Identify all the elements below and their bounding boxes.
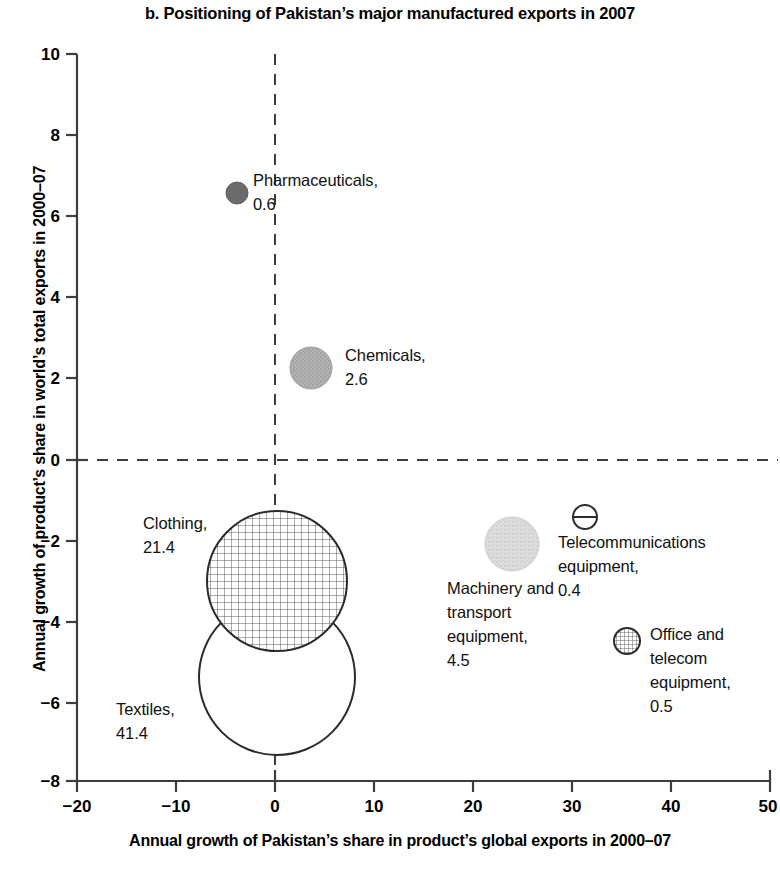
x-tick-label: 20 xyxy=(464,797,483,816)
bubble-label-line: 4.5 xyxy=(447,651,470,669)
bubble-label-line: transport xyxy=(447,603,512,621)
x-tick-label: 10 xyxy=(365,797,384,816)
bubble-label-pharmaceuticals: Pharmaceuticals, 0.6 xyxy=(253,171,378,213)
plot-canvas: 10 8 6 4 2 0 −2 −4 −6 −8 −20 −10 0 10 xyxy=(0,0,780,881)
y-tick-label: 0 xyxy=(51,451,60,470)
y-tick-label: 10 xyxy=(41,45,60,64)
bubble-label-telecommunications-equipment: Telecommunications equipment, 0.4 xyxy=(558,533,706,599)
y-axis-tick-labels: 10 8 6 4 2 0 −2 −4 −6 −8 xyxy=(41,45,61,791)
bubble-label-line: equipment, xyxy=(447,627,528,645)
x-axis-tick-labels: −20 −10 0 10 20 30 40 50 xyxy=(63,797,778,816)
y-tick-label: 2 xyxy=(51,369,60,388)
x-tick-label: −10 xyxy=(162,797,191,816)
bubble-label-line: Telecommunications xyxy=(558,533,706,551)
bubble-label-office-and-telecom-equipment: Office and telecom equipment, 0.5 xyxy=(650,625,731,715)
y-tick-label: 4 xyxy=(51,288,61,307)
bubble-label-line: Pharmaceuticals, xyxy=(253,171,378,189)
bubble-label-line: 0.5 xyxy=(650,697,673,715)
bubble-label-line: 2.6 xyxy=(345,370,368,388)
y-tick-label: −2 xyxy=(41,532,60,551)
y-tick-label: −6 xyxy=(41,694,60,713)
bubble-label-line: telecom xyxy=(650,649,707,667)
y-tick-label: 8 xyxy=(51,126,60,145)
bubble-label-line: Chemicals, xyxy=(345,346,426,364)
bubble-chemicals[interactable] xyxy=(290,347,332,389)
y-tick-label: 6 xyxy=(51,207,60,226)
y-tick-label: −8 xyxy=(41,772,60,791)
bubble-machinery-and-transport-equipment[interactable] xyxy=(485,517,539,571)
x-tick-label: 40 xyxy=(662,797,681,816)
bubble-clothing[interactable] xyxy=(207,511,347,651)
bubble-label-line: 0.4 xyxy=(558,581,581,599)
x-tick-label: −20 xyxy=(63,797,92,816)
bubble-chart-figure: b. Positioning of Pakistan’s major manuf… xyxy=(0,0,780,881)
bubble-label-clothing: Clothing, 21.4 xyxy=(143,514,207,556)
bubble-label-machinery-and-transport-equipment: Machinery and transport equipment, 4.5 xyxy=(447,579,554,669)
bubble-label-line: Textiles, xyxy=(116,700,175,718)
bubble-telecommunications-equipment[interactable] xyxy=(573,505,597,529)
bubble-label-line: 41.4 xyxy=(116,724,148,742)
x-tick-label: 50 xyxy=(759,797,778,816)
axis-spines xyxy=(77,54,770,781)
bubble-label-chemicals: Chemicals, 2.6 xyxy=(345,346,426,388)
bubble-label-line: Office and xyxy=(650,625,724,643)
bubble-label-line: Clothing, xyxy=(143,514,207,532)
x-tick-label: 0 xyxy=(270,797,279,816)
bubble-label-line: equipment, xyxy=(558,557,639,575)
bubble-office-and-telecom-equipment[interactable] xyxy=(614,628,640,654)
bubble-label-textiles: Textiles, 41.4 xyxy=(116,700,175,742)
bubble-pharmaceuticals[interactable] xyxy=(226,182,248,204)
y-tick-label: −4 xyxy=(41,613,61,632)
bubble-label-line: equipment, xyxy=(650,673,731,691)
bubble-label-line: 0.6 xyxy=(253,195,276,213)
bubble-label-line: 21.4 xyxy=(143,538,175,556)
bubble-label-line: Machinery and xyxy=(447,579,554,597)
x-tick-label: 30 xyxy=(563,797,582,816)
